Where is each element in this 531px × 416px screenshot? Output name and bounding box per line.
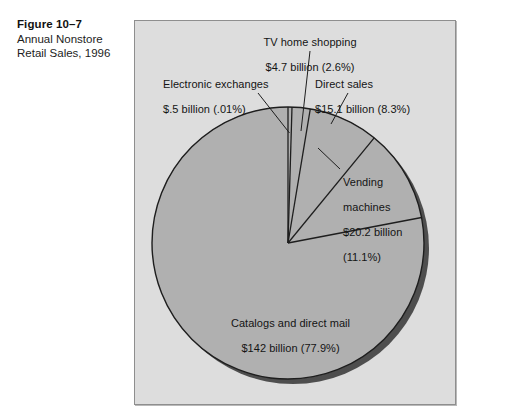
figure-number: Figure 10–7 bbox=[17, 17, 129, 32]
chart-panel: TV home shopping $4.7 billion (2.6%) Ele… bbox=[134, 20, 456, 405]
label-catalogs-direct-mail: Catalogs and direct mail $142 billion (7… bbox=[203, 304, 378, 367]
label-vending-machines-name-2: machines bbox=[343, 201, 441, 214]
chart-panel-inner: TV home shopping $4.7 billion (2.6%) Ele… bbox=[135, 21, 455, 404]
label-tv-home-shopping-name: TV home shopping bbox=[246, 36, 374, 49]
figure-caption: Figure 10–7 Annual Nonstore Retail Sales… bbox=[17, 17, 129, 61]
label-electronic-exchanges-name: Electronic exchanges bbox=[163, 78, 287, 91]
label-vending-machines-value-2: (11.1%) bbox=[343, 251, 441, 264]
label-electronic-exchanges: Electronic exchanges $.5 billion (.01%) bbox=[163, 65, 287, 128]
label-electronic-exchanges-value: $.5 billion (.01%) bbox=[163, 103, 287, 116]
figure-title-line-2: Retail Sales, 1996 bbox=[17, 46, 129, 61]
label-catalogs-direct-mail-value: $142 billion (77.9%) bbox=[203, 342, 378, 355]
label-vending-machines-value-1: $20.2 billion bbox=[343, 226, 441, 239]
label-vending-machines-name-1: Vending bbox=[343, 176, 441, 189]
label-vending-machines: Vending machines $20.2 billion (11.1%) bbox=[343, 163, 441, 276]
label-direct-sales: Direct sales $15.1 billion (8.3%) bbox=[315, 65, 440, 128]
figure-title-line-1: Annual Nonstore bbox=[17, 32, 129, 47]
label-catalogs-direct-mail-name: Catalogs and direct mail bbox=[203, 317, 378, 330]
label-direct-sales-value: $15.1 billion (8.3%) bbox=[315, 103, 440, 116]
label-direct-sales-name: Direct sales bbox=[315, 78, 440, 91]
